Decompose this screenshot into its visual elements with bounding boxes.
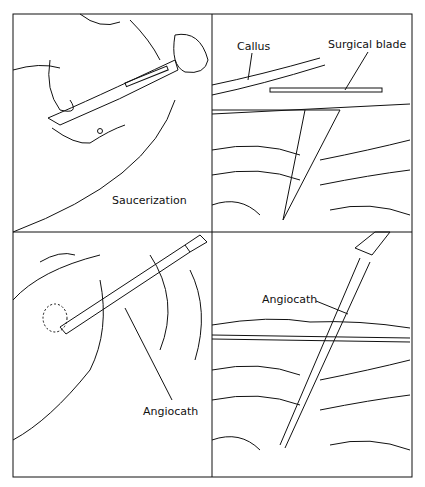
label-angiocath-left: Angiocath	[143, 405, 198, 418]
label-callus: Callus	[237, 40, 271, 53]
panel-angiocath-finger: Angiocath	[13, 235, 207, 440]
panel-saucerization: Saucerization	[13, 14, 208, 232]
panel-callus-blade: Callus Surgical blade	[212, 38, 410, 220]
panel-angiocath-skin: Angiocath	[212, 232, 410, 450]
illustration: Saucerization Callus Surgical blade Angi…	[0, 0, 425, 487]
label-angiocath-right: Angiocath	[262, 293, 317, 306]
label-surgical-blade: Surgical blade	[328, 38, 406, 51]
label-saucerization: Saucerization	[112, 194, 187, 207]
